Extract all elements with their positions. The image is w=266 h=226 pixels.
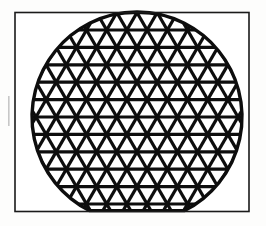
margin-marks [8,96,10,126]
lattice-disk-figure [0,0,266,226]
left-margin-scan-mark [8,96,10,126]
figure-container: Geodesic Triangular Lattice Disk A circu… [0,0,266,226]
